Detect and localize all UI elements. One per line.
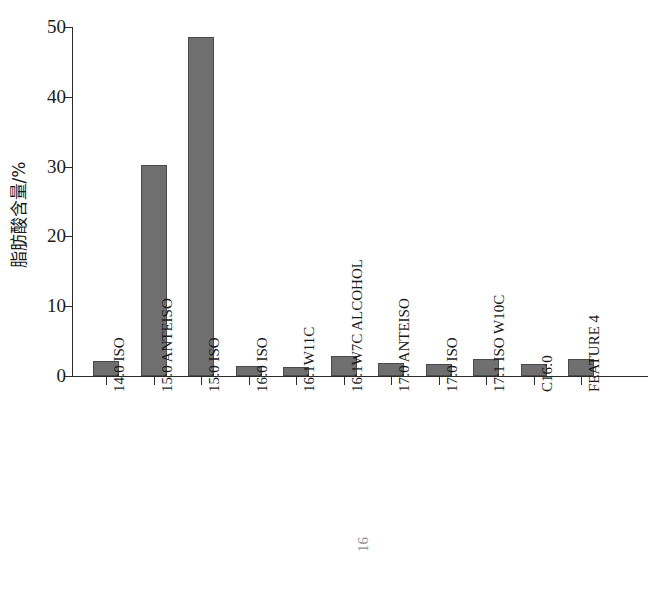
y-axis-line: [72, 27, 73, 377]
x-tick-label: 16:0 ISO: [255, 337, 270, 392]
y-tick-label: 40: [30, 87, 66, 106]
x-tick-label: FEATURE 4: [587, 315, 602, 392]
x-tick-mark: [391, 377, 392, 385]
y-tick-mark: [65, 236, 72, 237]
x-tick-label: 15:0 ANTEISO: [160, 298, 175, 392]
y-tick-label: 10: [30, 296, 66, 315]
x-tick-mark: [534, 377, 535, 385]
x-tick-label: C16:0: [540, 355, 555, 392]
y-tick-mark: [65, 167, 72, 168]
x-tick-mark: [249, 377, 250, 385]
y-tick-label: 20: [30, 226, 66, 245]
x-tick-label: 16:1W7C ALCOHOL: [350, 259, 365, 392]
x-tick-mark: [439, 377, 440, 385]
y-tick-label: 50: [30, 17, 66, 36]
x-tick-label: 15:0 ISO: [207, 337, 222, 392]
x-tick-mark: [106, 377, 107, 385]
y-tick-mark: [65, 27, 72, 28]
bar-chart: 脂肪酸含量/% 01020304050 14:0 ISO15:0 ANTEISO…: [0, 0, 654, 592]
x-tick-label: 16:1W11C: [302, 327, 317, 392]
x-tick-mark: [581, 377, 582, 385]
x-tick-mark: [486, 377, 487, 385]
y-tick-mark: [65, 306, 72, 307]
scan-artifact: 16: [355, 537, 372, 552]
x-tick-mark: [344, 377, 345, 385]
x-tick-label: 17:0 ISO: [445, 337, 460, 392]
y-tick-mark: [65, 376, 72, 377]
y-axis-label-text: 脂肪酸含量/%: [5, 162, 30, 269]
y-axis-tick-labels: 01020304050: [28, 0, 66, 592]
x-tick-label: 17:0 ANTEISO: [397, 298, 412, 392]
x-tick-mark: [154, 377, 155, 385]
x-tick-label: 17:1 ISO W10C: [492, 295, 507, 392]
bar: [188, 37, 214, 376]
x-tick-mark: [296, 377, 297, 385]
x-tick-mark: [201, 377, 202, 385]
y-tick-label: 30: [30, 157, 66, 176]
y-tick-label: 0: [30, 366, 66, 385]
x-tick-label: 14:0 ISO: [112, 337, 127, 392]
y-tick-mark: [65, 97, 72, 98]
